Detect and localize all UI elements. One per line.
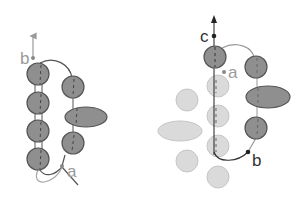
label-c: c xyxy=(200,27,209,46)
bead-light xyxy=(176,150,198,172)
bead-dark xyxy=(245,56,267,78)
long-bead-light xyxy=(158,121,202,141)
bead-light xyxy=(207,75,229,97)
bead-dark xyxy=(27,92,49,114)
bead-dark xyxy=(245,117,267,139)
point-b-dot xyxy=(246,150,251,155)
left-column-thread xyxy=(35,74,42,160)
right-figure: c a b xyxy=(158,15,290,188)
right-offset-beads xyxy=(158,89,202,172)
label-a-left: a xyxy=(67,162,77,181)
left-figure: b a xyxy=(20,36,107,185)
right-center-light-beads xyxy=(207,75,229,188)
bead-dark xyxy=(27,148,49,170)
right-right-column-beads xyxy=(245,56,290,139)
long-bead-dark xyxy=(246,86,290,108)
bead-dark xyxy=(27,120,49,142)
label-b-left: b xyxy=(20,49,29,68)
bead-light xyxy=(207,166,229,188)
bead-light xyxy=(207,105,229,127)
label-b-right: b xyxy=(252,151,261,170)
up-arrow-icon xyxy=(211,15,217,23)
bead-light xyxy=(207,135,229,157)
bead-dark xyxy=(27,63,49,85)
label-a-right: a xyxy=(228,63,238,82)
point-a-dot xyxy=(222,70,226,74)
point-c-dot xyxy=(212,34,217,39)
beading-diagram: b a xyxy=(0,0,307,214)
bead-dark xyxy=(62,76,84,98)
point-b-dot xyxy=(31,56,35,60)
bead-light xyxy=(176,89,198,111)
point-a-dot xyxy=(60,164,64,168)
long-bead-dark xyxy=(65,107,107,127)
left-right-column-beads xyxy=(62,76,107,154)
right-thread-top-arc xyxy=(222,45,254,57)
left-column-beads xyxy=(27,63,49,170)
